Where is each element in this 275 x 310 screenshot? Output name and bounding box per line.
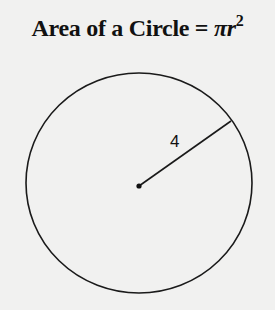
radius-line (139, 121, 231, 186)
center-point (136, 183, 141, 188)
radius-label: 4 (170, 132, 179, 151)
circle-outline (26, 73, 252, 293)
circle-diagram: 4 (0, 0, 275, 310)
